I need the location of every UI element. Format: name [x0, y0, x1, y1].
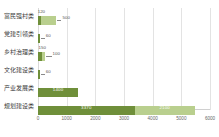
bar-stack	[38, 70, 40, 79]
bar-value-label: 150	[39, 45, 46, 50]
bar-value-label: 2100	[159, 105, 170, 110]
bar-value-label: 500	[63, 15, 70, 20]
leader-line	[41, 74, 45, 75]
y-axis-label: 富民强村类	[4, 12, 36, 21]
bar-value-label: 60	[46, 33, 51, 38]
bar-segment-b	[42, 52, 45, 61]
bar-segment-a	[38, 70, 40, 79]
gridline-6000	[210, 8, 211, 110]
bar-value-label: 120	[38, 9, 45, 14]
bar-stack	[38, 106, 195, 115]
bar-row: 60	[38, 30, 210, 48]
bar-stack	[38, 16, 56, 25]
bar-value-label: 1400	[53, 87, 64, 92]
x-tick-label: 2000	[90, 116, 100, 121]
y-axis-label: 规划建设类	[4, 102, 36, 111]
bar-segment-b	[41, 16, 55, 25]
x-tick-label: 6000	[205, 116, 215, 121]
chart-container: 富民强村类 党建引领类 乡村治理类 文化建设类 产业发展类 规划建设类 120 …	[0, 0, 219, 137]
x-tick-label: 3000	[119, 116, 129, 121]
bar-row: 150 100	[38, 48, 210, 66]
leader-line	[41, 38, 45, 39]
y-axis-label: 文化建设类	[4, 66, 36, 75]
x-tick-label: 4000	[148, 116, 158, 121]
bar-row: 60	[38, 66, 210, 84]
y-axis-label: 乡村治理类	[4, 48, 36, 57]
bar-segment-a	[38, 34, 40, 43]
leader-line	[57, 20, 62, 21]
x-tick-label: 0	[37, 116, 40, 121]
plot-area: 120 500 60 150 100	[38, 8, 210, 120]
leader-line	[46, 56, 52, 57]
x-tick-label: 5000	[176, 116, 186, 121]
bar-value-label: 3370	[81, 105, 92, 110]
bar-row: 120 500	[38, 12, 210, 30]
y-axis-label: 党建引领类	[4, 30, 36, 39]
bar-value-label: 100	[53, 51, 60, 56]
bar-stack	[38, 52, 45, 61]
bar-row: 1400	[38, 84, 210, 102]
bar-stack	[38, 34, 40, 43]
x-tick-label: 1000	[62, 116, 72, 121]
y-axis-label: 产业发展类	[4, 84, 36, 93]
bar-value-label: 60	[46, 69, 51, 74]
